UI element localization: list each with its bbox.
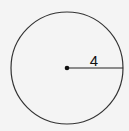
center-point xyxy=(65,66,70,71)
radius-label: 4 xyxy=(90,52,98,69)
circle-diagram: 4 xyxy=(0,0,129,131)
